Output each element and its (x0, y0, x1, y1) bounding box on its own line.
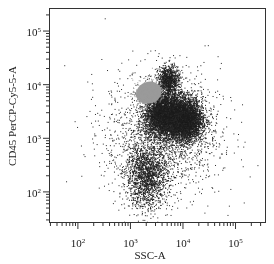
x-tick-label: 102 (71, 236, 86, 249)
x-tick-label: 104 (176, 236, 191, 249)
y-axis-title: CD45 PerCP-Cy5-5-A (6, 66, 18, 166)
y-tick-label: 102 (27, 186, 42, 199)
x-tick-label: 103 (123, 236, 138, 249)
x-tick-label: 105 (228, 236, 243, 249)
flow-cytometry-scatter-plot: 102103104105 102103104105 SSC-A CD45 Per… (0, 0, 274, 264)
y-tick-label: 103 (27, 132, 42, 145)
y-tick-label: 105 (27, 25, 42, 38)
scatter-points (49, 8, 266, 223)
x-axis-title: SSC-A (134, 249, 165, 261)
y-tick-label: 104 (27, 79, 42, 92)
